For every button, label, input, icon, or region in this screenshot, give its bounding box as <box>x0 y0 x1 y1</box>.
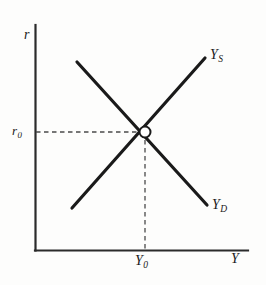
equilibrium-point-marker <box>140 127 151 138</box>
supply-demand-figure: r r0 YS YD Y0 Y <box>0 0 266 285</box>
supply-curve-base: Y <box>210 47 218 62</box>
demand-curve-subscript: D <box>220 204 227 214</box>
plot-canvas <box>0 0 266 285</box>
equilibrium-output-subscript: 0 <box>143 260 148 270</box>
demand-curve-base: Y <box>212 197 220 212</box>
supply-curve-label: YS <box>210 48 223 62</box>
y-axis-label-text: r <box>24 27 29 42</box>
supply-curve-subscript: S <box>218 54 223 64</box>
y-axis-label: r <box>24 28 29 42</box>
demand-curve-label: YD <box>212 198 227 212</box>
equilibrium-rate-subscript: 0 <box>17 130 22 140</box>
equilibrium-output-label: Y0 <box>135 254 148 268</box>
x-axis-label: Y <box>231 252 239 266</box>
equilibrium-rate-label: r0 <box>12 124 22 137</box>
equilibrium-output-base: Y <box>135 253 143 268</box>
x-axis-label-text: Y <box>231 251 239 266</box>
